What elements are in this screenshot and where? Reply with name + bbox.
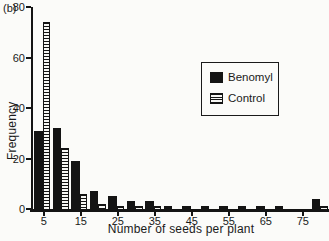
y-tick-label: 60 xyxy=(3,52,25,64)
x-axis-line xyxy=(30,209,329,212)
legend-item-benomyl: Benomyl xyxy=(210,71,278,83)
x-axis-title: Number of seeds per plant xyxy=(33,222,329,236)
bar-control-5 xyxy=(43,22,51,209)
bar-benomyl-25 xyxy=(108,196,117,209)
y-tick-mark xyxy=(26,57,31,59)
legend: Benomyl Control xyxy=(201,62,279,116)
bar-control-10 xyxy=(61,148,69,209)
bar-benomyl-80 xyxy=(312,199,321,209)
histogram-figure: (b) Frequency 020406080 515253545556575 … xyxy=(0,0,329,241)
plot-area xyxy=(33,7,329,209)
bar-benomyl-30 xyxy=(127,201,136,209)
y-tick-label: 20 xyxy=(3,153,25,165)
legend-label-control: Control xyxy=(228,92,265,104)
y-tick-mark xyxy=(26,107,31,109)
bar-benomyl-15 xyxy=(71,161,80,209)
y-tick-mark xyxy=(26,6,31,8)
y-tick-mark xyxy=(26,158,31,160)
bar-control-15 xyxy=(80,194,88,209)
y-tick-mark xyxy=(26,208,31,210)
y-tick-label: 40 xyxy=(3,102,25,114)
bar-benomyl-10 xyxy=(53,128,62,209)
legend-item-control: Control xyxy=(210,92,278,104)
y-tick-label: 80 xyxy=(3,1,25,13)
y-tick-label: 0 xyxy=(3,203,25,215)
bar-benomyl-35 xyxy=(145,201,154,209)
bar-benomyl-20 xyxy=(90,191,99,209)
bar-benomyl-5 xyxy=(34,131,43,209)
legend-swatch-benomyl-icon xyxy=(210,72,223,83)
y-axis-line xyxy=(31,7,33,212)
legend-swatch-control-icon xyxy=(210,93,223,104)
legend-label-benomyl: Benomyl xyxy=(228,71,273,83)
